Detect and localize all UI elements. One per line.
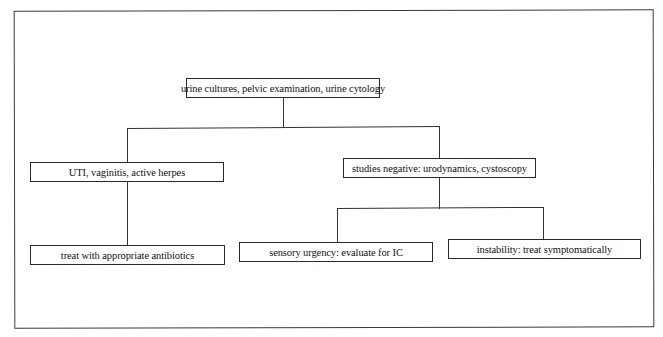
node-uti: UTI, vaginitis, active herpes: [30, 162, 224, 182]
connector-to-sensory: [337, 209, 338, 242]
node-treat: treat with appropriate antibiotics: [30, 245, 225, 265]
node-sensory-label: sensory urgency: evaluate for IC: [269, 247, 403, 258]
node-instability-label: instability: treat symptomatically: [477, 244, 612, 255]
connector-to-uti: [127, 129, 128, 162]
connector-to-instability: [543, 207, 544, 239]
node-instability: instability: treat symptomatically: [448, 239, 641, 259]
connector-to-studies: [439, 126, 440, 158]
node-root: urine cultures, pelvic examination, urin…: [186, 78, 380, 98]
connector-root-stem: [283, 97, 284, 128]
node-sensory: sensory urgency: evaluate for IC: [239, 242, 433, 262]
node-studies: studies negative: urodynamics, cystoscop…: [343, 158, 536, 178]
node-uti-label: UTI, vaginitis, active herpes: [69, 167, 185, 178]
node-treat-label: treat with appropriate antibiotics: [61, 250, 194, 261]
connector-studies-stem: [439, 177, 440, 209]
node-root-label: urine cultures, pelvic examination, urin…: [181, 83, 385, 94]
connector-uti-to-treat: [127, 181, 128, 246]
node-studies-label: studies negative: urodynamics, cystoscop…: [352, 163, 527, 174]
